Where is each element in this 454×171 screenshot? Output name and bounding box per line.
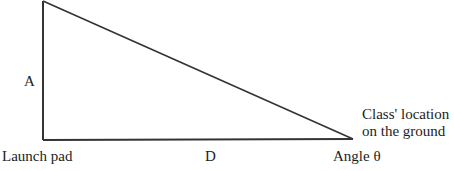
launch-pad-label: Launch pad [2,148,72,165]
triangle-diagram: A Launch pad D Angle θ Class' location o… [0,0,454,171]
side-a-label: A [24,73,35,90]
side-d-line [43,139,353,140]
hypotenuse-line [43,1,353,139]
right-triangle-shape [0,0,454,171]
side-d-label: D [205,148,216,165]
on-the-ground-label: on the ground [362,123,445,140]
angle-theta-label: Angle θ [333,148,381,165]
class-location-label: Class' location [362,106,449,123]
